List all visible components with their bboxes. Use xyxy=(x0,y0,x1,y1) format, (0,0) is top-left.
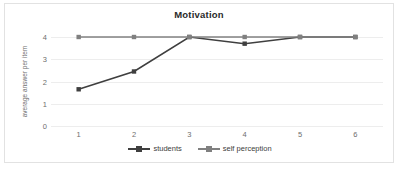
series-group xyxy=(51,37,383,126)
x-axis-tick-label: 5 xyxy=(298,130,302,139)
x-axis-tick-label: 4 xyxy=(243,130,247,139)
x-axis-tick-label: 1 xyxy=(77,130,81,139)
legend-item-self-perception[interactable]: self perception xyxy=(198,144,272,153)
data-point-marker xyxy=(76,35,80,39)
series-self-perception xyxy=(76,35,357,39)
data-point-marker xyxy=(242,35,246,39)
series-line xyxy=(79,37,356,89)
data-point-marker xyxy=(187,35,191,39)
gridline xyxy=(51,126,383,127)
data-point-marker xyxy=(298,35,302,39)
data-point-marker xyxy=(132,69,136,73)
y-axis-title: average answer per item xyxy=(19,37,31,126)
legend-item-students[interactable]: students xyxy=(128,144,181,153)
y-axis-tick-label: 0 xyxy=(43,122,47,131)
chart-legend: studentsself perception xyxy=(5,144,395,153)
legend-marker-icon xyxy=(128,145,150,153)
plot-area: 01234 123456 xyxy=(51,37,383,126)
x-axis-tick-label: 2 xyxy=(132,130,136,139)
chart-container: Motivation average answer per item 01234… xyxy=(4,3,394,163)
x-axis-tick-label: 3 xyxy=(187,130,191,139)
data-point-marker xyxy=(76,87,80,91)
legend-label: students xyxy=(153,144,181,153)
data-point-marker xyxy=(353,35,357,39)
y-axis-tick-label: 4 xyxy=(43,33,47,42)
y-axis-tick-label: 1 xyxy=(43,99,47,108)
legend-label: self perception xyxy=(223,144,272,153)
data-point-marker xyxy=(132,35,136,39)
x-axis-tick-label: 6 xyxy=(353,130,357,139)
legend-marker-icon xyxy=(198,145,220,153)
y-axis-tick-label: 3 xyxy=(43,55,47,64)
y-axis-tick-label: 2 xyxy=(43,77,47,86)
data-point-marker xyxy=(242,41,246,45)
series-students xyxy=(76,35,357,92)
chart-title: Motivation xyxy=(5,9,393,20)
